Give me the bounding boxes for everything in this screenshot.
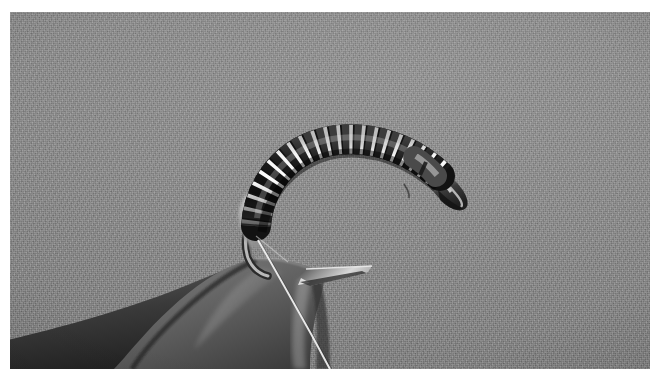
tying-thread-upper-wisp <box>256 236 288 262</box>
scene-contents <box>10 12 650 369</box>
tying-thread-layer <box>10 12 650 369</box>
tying-thread-shadow <box>260 241 332 369</box>
screenshot-root: Black and white macro photo of a ribbed … <box>0 0 660 371</box>
tying-thread <box>258 240 330 369</box>
photograph <box>10 12 650 369</box>
